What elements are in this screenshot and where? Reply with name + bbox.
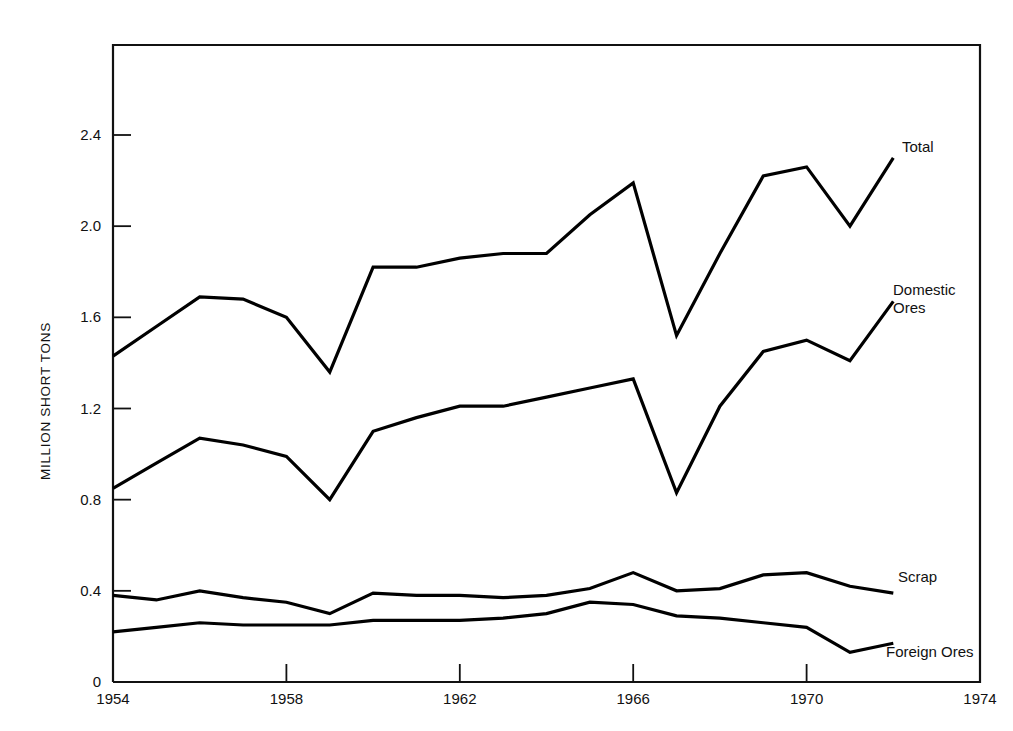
y-axis-tick-label: 2.4	[80, 126, 101, 143]
line-chart: 00.40.81.21.62.02.4 19541958196219661970…	[0, 0, 1013, 731]
y-axis-title: MILLION SHORT TONS	[38, 322, 53, 480]
y-axis-tick-label: 1.6	[80, 308, 101, 325]
x-axis-tick-label: 1954	[96, 690, 129, 707]
x-axis-tick-label: 1974	[963, 690, 996, 707]
x-axis-tick-label: 1966	[617, 690, 650, 707]
y-axis-tick-label: 0.8	[80, 491, 101, 508]
y-axis: 00.40.81.21.62.02.4	[80, 126, 131, 690]
series-line-foreign-ores	[113, 602, 893, 652]
y-axis-tick-label: 0.4	[80, 582, 101, 599]
series-label-total: Total	[902, 138, 934, 155]
series-label-scrap: Scrap	[898, 568, 937, 585]
series-line-scrap	[113, 573, 893, 614]
y-axis-tick-label: 2.0	[80, 217, 101, 234]
x-axis-tick-label: 1970	[790, 690, 823, 707]
x-axis-tick-label: 1958	[270, 690, 303, 707]
x-axis: 195419581962196619701974	[96, 664, 996, 707]
x-axis-tick-label: 1962	[443, 690, 476, 707]
y-axis-tick-label: 1.2	[80, 400, 101, 417]
series-labels: TotalDomesticOresScrapForeign Ores	[886, 138, 974, 660]
series-label-foreign-ores: Foreign Ores	[886, 643, 974, 660]
series-label-domestic-ores: DomesticOres	[893, 281, 956, 316]
series-lines	[113, 158, 893, 653]
chart-container: 00.40.81.21.62.02.4 19541958196219661970…	[0, 0, 1013, 731]
series-line-domestic-ores	[113, 301, 893, 499]
y-axis-tick-label: 0	[93, 673, 101, 690]
series-line-total	[113, 158, 893, 372]
